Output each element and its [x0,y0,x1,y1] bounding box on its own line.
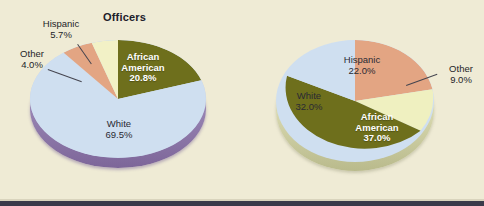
slice-label-officers-hispanic: Hispanic 5.7% [30,19,92,40]
label-value: 37.0% [341,133,413,144]
slice-label-inmates-african-american: African American 37.0% [341,112,413,144]
figure-container: Officers African American 20.8% White 69… [0,0,484,206]
label-value: 22.0% [331,66,393,77]
slice-label-inmates-other: Other 9.0% [440,64,482,85]
label-value: 69.5% [88,130,150,141]
slice-label-officers-african-american: African American 20.8% [107,52,179,84]
label-value: 20.8% [107,73,179,84]
label-value: 9.0% [440,75,482,86]
slice-label-inmates-white: White 32.0% [282,91,336,112]
bottom-rule-dark [0,201,484,206]
chart-title-officers: Officers [103,11,146,23]
slice-label-officers-other: Other 4.0% [9,49,55,70]
slice-label-officers-white: White 69.5% [88,119,150,140]
label-value: 5.7% [30,30,92,41]
label-value: 32.0% [282,102,336,113]
slice-label-inmates-hispanic: Hispanic 22.0% [331,55,393,76]
